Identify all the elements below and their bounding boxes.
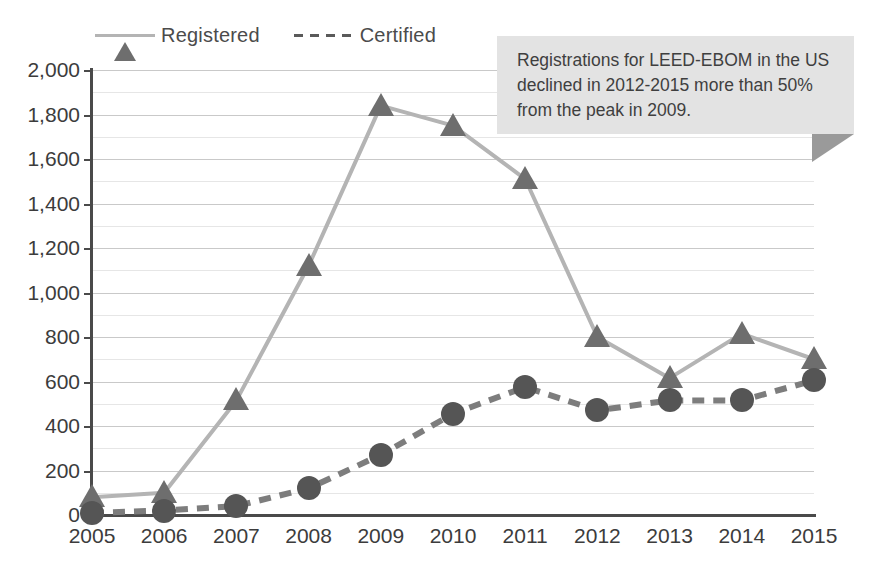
x-axis-tick-label: 2010	[430, 524, 477, 548]
x-axis-tick-label: 2005	[69, 524, 116, 548]
y-axis-tick-label: 1,200	[2, 236, 80, 260]
x-axis-tick-label: 2009	[357, 524, 404, 548]
x-axis-tick-label: 2015	[791, 524, 838, 548]
triangle-marker-icon	[440, 113, 466, 136]
triangle-marker-icon	[584, 324, 610, 347]
gridline	[92, 226, 814, 227]
x-axis-tick-label: 2012	[574, 524, 621, 548]
triangle-marker-icon	[95, 24, 155, 46]
y-axis-labels: 02004006008001,0001,2001,4001,6001,8002,…	[0, 0, 80, 579]
triangle-marker-icon	[512, 166, 538, 189]
y-axis-tick	[84, 204, 93, 206]
y-axis-tick-label: 1,400	[2, 192, 80, 216]
y-axis-tick-label: 2,000	[2, 58, 80, 82]
callout-box: Registrations for LEED-EBOM in the US de…	[497, 36, 854, 134]
gridline	[92, 159, 814, 160]
triangle-marker-icon	[801, 346, 827, 369]
x-axis-tick-label: 2013	[646, 524, 693, 548]
y-axis-tick	[84, 248, 93, 250]
gridline	[92, 382, 814, 383]
gridline	[92, 137, 814, 138]
gridline	[92, 293, 814, 294]
gridline	[92, 471, 814, 472]
gridline	[92, 204, 814, 205]
x-axis-line	[90, 514, 816, 517]
triangle-marker-icon	[729, 321, 755, 344]
legend-label-registered: Registered	[161, 24, 260, 47]
gridline	[92, 248, 814, 249]
chart-legend: Registered Certified	[95, 20, 436, 50]
triangle-marker-icon	[223, 387, 249, 410]
circle-marker-icon	[152, 499, 176, 523]
y-axis-tick-label: 1,800	[2, 103, 80, 127]
circle-marker-icon	[297, 476, 321, 500]
circle-marker-icon	[369, 443, 393, 467]
triangle-marker-icon	[368, 93, 394, 116]
y-axis-tick	[84, 115, 93, 117]
y-axis-tick	[84, 159, 93, 161]
legend-item-certified[interactable]: Certified	[294, 24, 436, 47]
legend-label-certified: Certified	[360, 24, 436, 47]
y-axis-tick-label: 200	[2, 459, 80, 483]
gridline	[92, 337, 814, 338]
circle-marker-icon	[802, 368, 826, 392]
triangle-marker-icon	[296, 253, 322, 276]
gridline	[92, 359, 814, 360]
gridline	[92, 181, 814, 182]
triangle-marker-icon	[657, 365, 683, 388]
y-axis-tick	[84, 293, 93, 295]
y-axis-tick	[84, 70, 93, 72]
y-axis-tick-label: 1,600	[2, 147, 80, 171]
gridline	[92, 448, 814, 449]
x-axis-tick-label: 2014	[718, 524, 765, 548]
y-axis-tick	[84, 471, 93, 473]
circle-marker-icon	[294, 24, 354, 46]
x-axis-tick-label: 2006	[141, 524, 188, 548]
circle-marker-icon	[658, 388, 682, 412]
gridline	[92, 315, 814, 316]
gridline	[92, 270, 814, 271]
y-axis-tick-label: 1,000	[2, 281, 80, 305]
gridline	[92, 426, 814, 427]
y-axis-tick	[84, 382, 93, 384]
y-axis-tick	[84, 337, 93, 339]
y-axis-tick-label: 800	[2, 325, 80, 349]
x-axis-tick-label: 2008	[285, 524, 332, 548]
x-axis-tick-label: 2011	[503, 524, 548, 548]
callout-tail-icon	[812, 134, 854, 162]
callout-text: Registrations for LEED-EBOM in the US de…	[517, 48, 838, 123]
circle-marker-icon	[80, 501, 104, 525]
gridline	[92, 493, 814, 494]
chart-root: Registered Certified 02004006008001,0001…	[0, 0, 870, 579]
y-axis-tick	[84, 426, 93, 428]
y-axis-tick-label: 400	[2, 414, 80, 438]
plot-gridlines	[92, 70, 814, 515]
legend-item-registered[interactable]: Registered	[95, 24, 260, 47]
x-axis-tick-label: 2007	[213, 524, 260, 548]
y-axis-tick-label: 600	[2, 370, 80, 394]
circle-marker-icon	[441, 402, 465, 426]
